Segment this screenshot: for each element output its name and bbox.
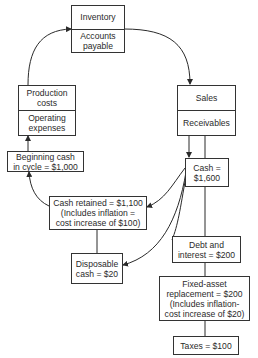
inventory-label: Inventory	[72, 6, 124, 29]
receivables-label: Receivables	[178, 110, 235, 135]
beginning-cash-box: Beginning cash in cycle = $1,000	[7, 151, 84, 172]
beginning-cash-label: Beginning cash in cycle = $1,000	[8, 152, 83, 172]
taxes-box: Taxes = $100	[173, 336, 239, 355]
operating-expenses-label: Operating expenses	[19, 110, 75, 135]
inventory-box: Inventory Accounts payable	[71, 5, 125, 53]
sales-label: Sales	[178, 86, 235, 110]
accounts-payable-label: Accounts payable	[72, 29, 124, 53]
debt-interest-box: Debt and interest = $200	[172, 236, 241, 263]
production-box: Production costs Operating expenses	[18, 85, 76, 136]
cash-label: Cash = $1,600	[186, 159, 228, 186]
cash-retained-box: Cash retained = $1,100 (Includes inflati…	[49, 196, 147, 230]
debt-interest-label: Debt and interest = $200	[173, 237, 240, 262]
arrow-production-to-inventory	[28, 29, 71, 85]
sales-box: Sales Receivables	[177, 85, 236, 136]
disposable-cash-box: Disposable cash = $20	[71, 253, 123, 284]
arrow-retained-to-begincash	[29, 172, 49, 206]
taxes-label: Taxes = $100	[174, 337, 238, 354]
production-costs-label: Production costs	[19, 86, 75, 110]
arrow-inventory-to-sales	[124, 29, 190, 84]
cash-retained-label: Cash retained = $1,100 (Includes inflati…	[50, 197, 146, 229]
disposable-cash-label: Disposable cash = $20	[72, 254, 122, 283]
cash-box: Cash = $1,600	[185, 158, 229, 187]
fixed-asset-label: Fixed-asset replacement = $200 (Includes…	[160, 277, 249, 320]
fixed-asset-box: Fixed-asset replacement = $200 (Includes…	[159, 276, 250, 321]
